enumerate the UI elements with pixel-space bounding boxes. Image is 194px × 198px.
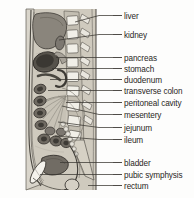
label-kidney: kidney	[124, 31, 147, 40]
label-stomach: stomach	[124, 65, 154, 74]
anal-canal	[65, 179, 79, 191]
label-duodenum: duodenum	[124, 76, 162, 85]
anatomy-figure: liverkidneypancreasstomachduodenumtransv…	[0, 0, 194, 198]
label-liver: liver	[124, 12, 139, 21]
label-bladder: bladder	[124, 159, 151, 168]
label-pubic-symphysis: pubic symphysis	[124, 171, 183, 180]
label-ileum: ileum	[124, 136, 143, 145]
label-pancreas: pancreas	[124, 54, 157, 63]
label-rectum: rectum	[124, 182, 148, 191]
label-peritoneal-cavity: peritoneal cavity	[124, 99, 181, 108]
label-mesentery: mesentery	[124, 111, 161, 120]
label-jejunum: jejunum	[124, 124, 152, 133]
label-transverse-colon: transverse colon	[124, 87, 182, 96]
